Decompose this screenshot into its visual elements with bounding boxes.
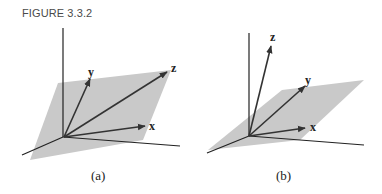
- panel-a: y z x (a): [22, 28, 180, 183]
- shaded-plane: [208, 80, 364, 150]
- label-x: x: [310, 120, 316, 134]
- figure-diagram: y z x (a) z y x (b): [0, 0, 382, 194]
- label-z: z: [270, 30, 276, 44]
- label-y: y: [305, 73, 311, 87]
- label-x: x: [149, 119, 155, 133]
- label-y: y: [88, 65, 94, 79]
- caption-a: (a): [91, 168, 105, 183]
- label-z: z: [171, 61, 177, 75]
- panel-b: z y x (b): [207, 30, 364, 183]
- caption-b: (b): [276, 168, 291, 183]
